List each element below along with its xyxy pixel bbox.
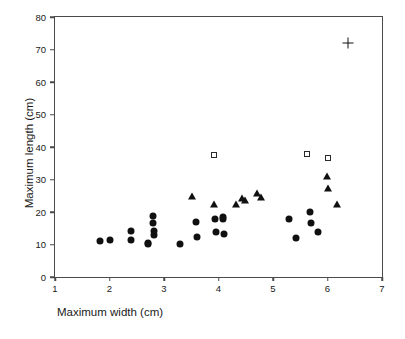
data-point-filled-triangle <box>257 194 265 201</box>
data-point-filled-circle <box>307 208 314 215</box>
data-point-filled-circle <box>128 236 135 243</box>
data-point-filled-triangle <box>241 196 249 203</box>
data-point-filled-circle <box>220 215 227 222</box>
y-axis-tick-label: 80 <box>35 12 46 22</box>
x-axis-tick-label: 5 <box>270 284 275 294</box>
data-point-filled-circle <box>150 220 157 227</box>
x-axis-tick: 7 <box>381 277 383 281</box>
y-axis-tick-label: 50 <box>35 110 46 120</box>
x-axis-tick-label: 6 <box>325 284 330 294</box>
y-axis-label: Maximum length (cm) <box>23 68 35 238</box>
data-point-filled-circle <box>314 228 321 235</box>
x-axis-tick-label: 2 <box>107 284 112 294</box>
x-axis-tick: 6 <box>327 277 329 281</box>
data-point-filled-circle <box>292 235 299 242</box>
data-markers-layer <box>55 17 382 277</box>
y-axis-tick-label: 10 <box>35 240 46 250</box>
data-point-filled-circle <box>107 236 114 243</box>
x-axis-tick-label: 3 <box>161 284 166 294</box>
plot-area: 01020304050607080 1234567 <box>54 16 383 278</box>
x-axis-tick: 5 <box>272 277 274 281</box>
data-point-filled-circle <box>145 240 152 247</box>
data-point-filled-circle <box>220 231 227 238</box>
data-point-filled-circle <box>177 240 184 247</box>
data-point-filled-circle <box>286 215 293 222</box>
data-point-filled-circle <box>307 220 314 227</box>
data-point-open-square <box>325 155 331 161</box>
y-axis-tick-label: 60 <box>35 77 46 87</box>
data-point-open-square <box>304 151 310 157</box>
data-point-filled-circle <box>127 228 134 235</box>
x-axis-tick: 4 <box>218 277 220 281</box>
data-point-filled-triangle <box>333 200 341 207</box>
x-axis-label: Maximum width (cm) <box>57 306 163 318</box>
y-axis-tick-label: 40 <box>35 142 46 152</box>
data-point-filled-triangle <box>323 173 331 180</box>
data-point-filled-circle <box>193 219 200 226</box>
data-point-filled-circle <box>151 231 158 238</box>
x-axis-tick: 1 <box>54 277 56 281</box>
y-axis-tick-label: 70 <box>35 45 46 55</box>
data-point-filled-circle <box>212 216 219 223</box>
data-point-filled-triangle <box>210 200 218 207</box>
data-point-filled-circle <box>96 237 103 244</box>
data-point-filled-circle <box>212 228 219 235</box>
x-axis-tick: 3 <box>163 277 165 281</box>
y-axis-tick-label: 0 <box>41 272 46 282</box>
x-axis-tick: 2 <box>109 277 111 281</box>
x-axis-tick-label: 4 <box>216 284 221 294</box>
x-axis-tick-label: 7 <box>379 284 384 294</box>
data-point-open-square <box>211 152 217 158</box>
y-axis-tick-label: 20 <box>35 207 46 217</box>
y-axis-tick-label: 30 <box>35 175 46 185</box>
scatter-chart-figure: 01020304050607080 1234567 Maximum width … <box>0 0 405 339</box>
data-point-plus <box>343 38 354 49</box>
data-point-filled-triangle <box>188 193 196 200</box>
data-point-filled-circle <box>194 233 201 240</box>
x-axis-tick-label: 1 <box>52 284 57 294</box>
data-point-filled-triangle <box>324 184 332 191</box>
